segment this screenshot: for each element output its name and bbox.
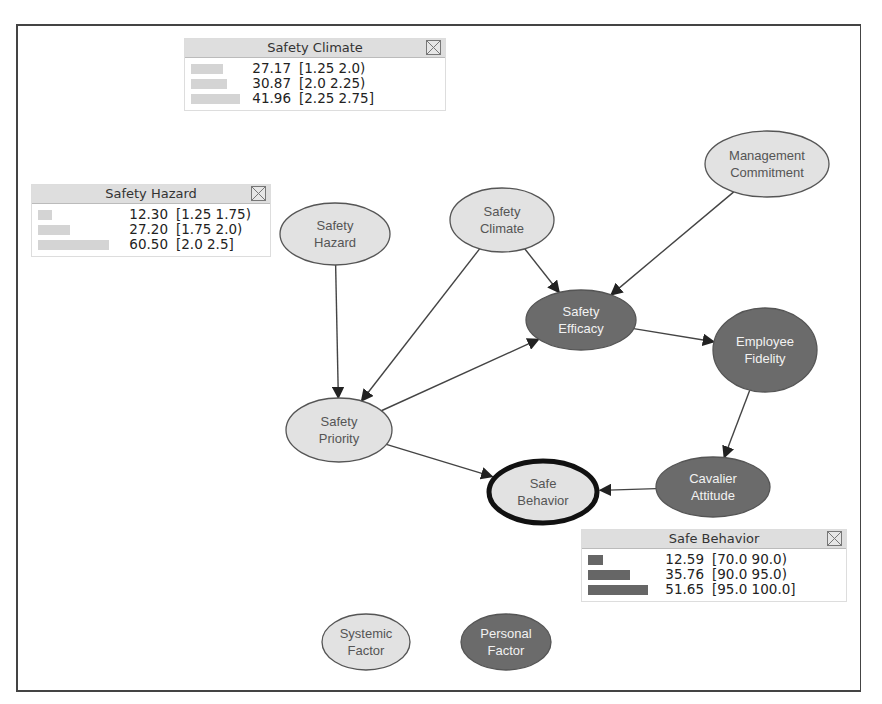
panel-title: Safety Climate	[267, 40, 363, 55]
probability-bar	[191, 64, 223, 74]
state-range: [2.0 2.25)	[299, 76, 365, 91]
probability-value: 30.87	[252, 76, 291, 91]
panel-title-bar[interactable]: Safe Behavior	[582, 530, 846, 549]
node-safety-priority[interactable]	[286, 398, 392, 462]
probability-bar	[38, 210, 52, 220]
edge-safety-priority-to-safety-efficacy	[381, 339, 538, 411]
edge-safety-hazard-to-safety-priority	[336, 265, 339, 398]
monitor-panel-safe-behavior[interactable]: Safe Behavior 12.59[70.0 90.0) 35.76[90.…	[581, 529, 847, 602]
state-range: [2.25 2.75]	[299, 91, 374, 106]
panel-title-bar[interactable]: Safety Climate	[185, 39, 445, 58]
edge-safety-climate-to-safety-priority	[361, 249, 479, 401]
edge-safety-efficacy-to-employee-fidelity	[634, 329, 714, 342]
probability-value: 12.59	[665, 552, 704, 567]
node-personal-factor[interactable]	[461, 614, 551, 670]
state-row: 27.17[1.25 2.0)	[189, 61, 441, 76]
node-safety-climate[interactable]	[450, 188, 554, 252]
probability-bar	[38, 240, 109, 250]
monitor-panel-safety-climate[interactable]: Safety Climate 27.17[1.25 2.0) 30.87[2.0…	[184, 38, 446, 111]
edge-employee-fidelity-to-cavalier-attitude	[724, 390, 750, 457]
edge-cavalier-attitude-to-safe-behavior	[600, 489, 656, 491]
state-range: [2.0 2.5]	[176, 237, 234, 252]
panel-title: Safety Hazard	[105, 186, 197, 201]
edge-safety-climate-to-safety-efficacy	[525, 249, 559, 293]
probability-bar	[588, 585, 648, 595]
state-range: [1.25 1.75)	[176, 207, 251, 222]
probability-value: 51.65	[665, 582, 704, 597]
state-row: 35.76[90.0 95.0)	[586, 567, 842, 582]
probability-bar	[588, 570, 630, 580]
probability-bar	[588, 555, 603, 565]
state-row: 30.87[2.0 2.25)	[189, 76, 441, 91]
close-icon[interactable]	[251, 186, 266, 201]
node-systemic-factor[interactable]	[322, 614, 410, 670]
node-cavalier-attitude[interactable]	[656, 457, 770, 517]
state-row: 12.59[70.0 90.0)	[586, 552, 842, 567]
close-icon[interactable]	[426, 40, 441, 55]
probability-bar	[38, 225, 70, 235]
state-range: [70.0 90.0)	[712, 552, 787, 567]
state-range: [1.75 2.0)	[176, 222, 242, 237]
node-management-commitment[interactable]	[705, 131, 829, 197]
probability-value: 41.96	[252, 91, 291, 106]
probability-value: 60.50	[129, 237, 168, 252]
panel-title-bar[interactable]: Safety Hazard	[32, 185, 270, 204]
probability-value: 35.76	[665, 567, 704, 582]
probability-bar	[191, 94, 240, 104]
edge-safety-priority-to-safe-behavior	[386, 444, 492, 476]
panel-title: Safe Behavior	[669, 531, 760, 546]
state-range: [90.0 95.0)	[712, 567, 787, 582]
state-row: 60.50[2.0 2.5]	[36, 237, 266, 252]
probability-value: 27.17	[252, 61, 291, 76]
state-row: 27.20[1.75 2.0)	[36, 222, 266, 237]
edge-management-commitment-to-safety-efficacy	[611, 192, 734, 295]
state-row: 51.65[95.0 100.0]	[586, 582, 842, 597]
state-row: 12.30[1.25 1.75)	[36, 207, 266, 222]
state-row: 41.96[2.25 2.75]	[189, 91, 441, 106]
probability-bar	[191, 79, 227, 89]
node-safe-behavior[interactable]	[489, 461, 597, 523]
state-range: [95.0 100.0]	[712, 582, 796, 597]
state-range: [1.25 2.0)	[299, 61, 365, 76]
node-safety-efficacy[interactable]	[526, 290, 636, 350]
probability-value: 12.30	[129, 207, 168, 222]
node-safety-hazard[interactable]	[280, 203, 390, 265]
close-icon[interactable]	[827, 531, 842, 546]
monitor-panel-safety-hazard[interactable]: Safety Hazard 12.30[1.25 1.75) 27.20[1.7…	[31, 184, 271, 257]
node-employee-fidelity[interactable]	[713, 308, 817, 392]
probability-value: 27.20	[129, 222, 168, 237]
